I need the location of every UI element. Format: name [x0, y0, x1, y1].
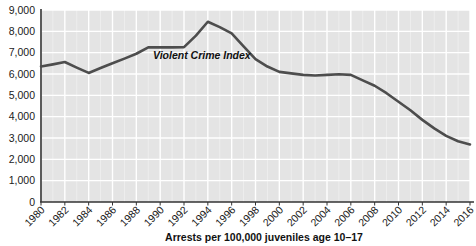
y-axis-tick-label: 2,000 [9, 153, 35, 165]
y-axis-tick-label: 3,000 [9, 132, 35, 144]
y-axis-tick-label: 9,000 [9, 4, 35, 16]
y-axis-tick-label: 4,000 [9, 110, 35, 122]
y-axis-tick-label: 6,000 [9, 68, 35, 80]
y-axis-tick-label: 5,000 [9, 89, 35, 101]
y-axis-tick-label: 8,000 [9, 25, 35, 37]
y-axis-tick-label: 7,000 [9, 46, 35, 58]
y-axis-tick-label: 0 [29, 196, 35, 208]
chart-canvas: 01,0002,0003,0004,0005,0006,0007,0008,00… [0, 0, 476, 246]
chart-annotations: Violent Crime Index [153, 49, 252, 61]
violent-crime-index-chart: 01,0002,0003,0004,0005,0006,0007,0008,00… [0, 0, 476, 246]
y-axis-tick-label: 1,000 [9, 174, 35, 186]
x-axis-caption: Arrests per 100,000 juveniles age 10–17 [165, 231, 363, 243]
series-inline-label: Violent Crime Index [153, 49, 252, 61]
